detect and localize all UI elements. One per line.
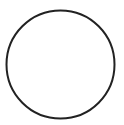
diagram-canvas [0, 0, 124, 125]
circle-outline [7, 11, 115, 119]
